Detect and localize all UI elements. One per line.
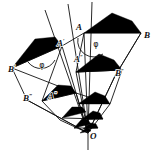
vertex-A3-base: A bbox=[47, 91, 54, 101]
vertex-O-base: O bbox=[90, 131, 97, 141]
vertex-A2-base: A bbox=[73, 54, 80, 64]
vertex-B: B bbox=[143, 30, 150, 40]
vertex-B2-base: B bbox=[114, 68, 121, 78]
vertex-B1-base: B bbox=[7, 64, 14, 74]
figure-canvas: φφABA′B′A″B″A‴B‴O bbox=[0, 0, 157, 150]
vertex-B2-primes: ″ bbox=[121, 68, 124, 74]
vertex-A-base: A bbox=[75, 22, 82, 32]
vertex-A2-primes: ″ bbox=[80, 54, 83, 60]
angle-phi-at-A1: φ bbox=[39, 61, 44, 70]
angle-phi-at-A: φ bbox=[93, 40, 98, 49]
vertex-B-base: B bbox=[143, 30, 150, 40]
vertex-A: A bbox=[75, 22, 82, 32]
spiral-similarity-diagram: φφABA′B′A″B″A‴B‴O bbox=[0, 0, 157, 150]
vertex-A3-primes: ‴ bbox=[54, 91, 57, 97]
vertex-B3-primes: ‴ bbox=[29, 93, 32, 99]
vertex-A1-base: A bbox=[56, 38, 63, 48]
vertex-B3-base: B bbox=[22, 93, 29, 103]
vertex-O: O bbox=[90, 131, 97, 141]
